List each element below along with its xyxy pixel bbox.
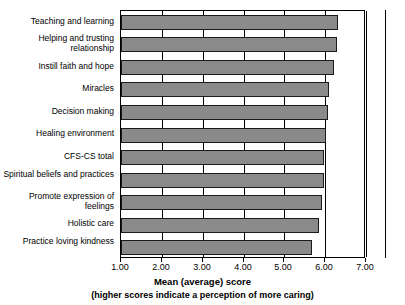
gridline (366, 11, 367, 257)
category-label: Spiritual beliefs and practices (0, 170, 114, 180)
category-label: Decision making (0, 107, 114, 117)
bar (121, 37, 337, 52)
bar (121, 82, 329, 97)
bar-chart: Teaching and learningHelping and trustin… (0, 0, 405, 305)
x-axis-subtitle: (higher scores indicate a perception of … (0, 290, 405, 300)
value-axis: 1.002.003.004.005.006.007.00 (120, 258, 365, 274)
bar (121, 60, 334, 75)
x-tick-label: 7.00 (356, 262, 374, 272)
category-label: Helping and trusting relationship (0, 34, 114, 53)
x-tick-label: 5.00 (274, 262, 292, 272)
bar (121, 218, 319, 233)
bar (121, 195, 322, 210)
right-border-rule (385, 10, 386, 258)
x-tick-label: 1.00 (111, 262, 129, 272)
x-axis-title: Mean (average) score (0, 276, 405, 287)
bar (121, 128, 326, 143)
bar (121, 15, 338, 30)
category-label: Healing environment (0, 129, 114, 139)
bar (121, 240, 312, 255)
bar (121, 105, 328, 120)
x-tick-label: 3.00 (193, 262, 211, 272)
category-label: Holistic care (0, 219, 114, 229)
category-label: Miracles (0, 84, 114, 94)
plot-area (120, 10, 365, 258)
category-axis-labels: Teaching and learningHelping and trustin… (0, 10, 118, 258)
category-label: Instill faith and hope (0, 62, 114, 72)
category-label: Practice loving kindness (0, 237, 114, 247)
category-label: Teaching and learning (0, 17, 114, 27)
bar (121, 173, 324, 188)
bar (121, 150, 324, 165)
x-tick-label: 6.00 (315, 262, 333, 272)
category-label: Promote expression of feelings (0, 192, 114, 211)
x-tick-label: 4.00 (234, 262, 252, 272)
x-tick-label: 2.00 (152, 262, 170, 272)
category-label: CFS-CS total (0, 152, 114, 162)
